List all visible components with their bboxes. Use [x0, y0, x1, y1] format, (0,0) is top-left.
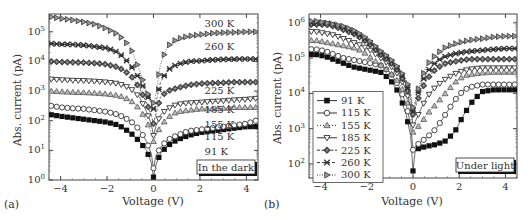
circle-marker: [178, 132, 183, 137]
triangle-up-marker: [59, 89, 65, 94]
x-marker: [81, 43, 87, 48]
circle-marker: [459, 90, 464, 95]
triangle-right-marker: [184, 34, 189, 40]
annotation-text: Under light: [456, 160, 514, 171]
circle-marker: [485, 82, 490, 87]
triangle-up-marker: [183, 108, 189, 113]
circle-marker: [65, 105, 70, 110]
square-marker: [49, 112, 54, 117]
circle-marker: [92, 108, 97, 113]
triangle-right-marker: [108, 28, 113, 34]
x-marker: [496, 46, 502, 51]
triangle-right-marker: [497, 34, 502, 40]
triangle-right-marker: [470, 37, 475, 43]
panel-a-dark: −4−202410010110210310410591 K115 K155 K1…: [28, 14, 259, 194]
triangle-up-marker: [145, 122, 151, 127]
triangle-up-marker: [113, 92, 119, 97]
circle-marker: [242, 121, 247, 126]
circle-marker: [335, 53, 340, 58]
legend-label: 260 K: [341, 157, 371, 168]
triangle-right-marker: [502, 33, 507, 39]
triangle-right-marker: [103, 25, 108, 31]
square-marker: [119, 124, 124, 129]
temperature-label: 300 K: [205, 18, 235, 29]
x-marker: [102, 45, 108, 50]
y-tick-label: 102: [288, 157, 305, 169]
triangle-right-marker: [459, 39, 464, 45]
square-marker: [70, 115, 75, 120]
circle-marker: [325, 49, 330, 54]
circle-marker: [248, 120, 253, 125]
circle-marker: [357, 59, 362, 64]
circle-marker: [156, 148, 161, 153]
circle-marker: [416, 141, 421, 146]
x-marker: [485, 47, 491, 52]
triangle-right-marker: [432, 54, 437, 60]
triangle-right-marker: [237, 29, 242, 35]
square-marker: [140, 143, 145, 148]
circle-marker: [324, 110, 330, 116]
circle-marker: [341, 55, 346, 60]
y-tick-label: 101: [28, 143, 45, 155]
x-marker: [161, 73, 167, 78]
triangle-right-marker: [92, 21, 97, 27]
triangle-up-marker: [421, 116, 427, 121]
triangle-right-marker: [76, 18, 81, 24]
x-marker: [231, 56, 237, 61]
x-marker: [91, 44, 97, 49]
square-marker: [464, 108, 469, 113]
y-tick-label: 104: [288, 86, 306, 98]
x-marker: [108, 47, 114, 52]
square-marker: [113, 122, 118, 127]
square-marker: [368, 68, 373, 73]
square-marker: [129, 132, 134, 137]
triangle-down-marker: [448, 74, 454, 79]
triangle-up-marker: [156, 127, 162, 132]
circle-marker: [129, 120, 134, 125]
legend-label: 91 K: [341, 95, 365, 106]
x-marker: [237, 56, 243, 61]
square-marker: [443, 138, 448, 143]
square-marker: [480, 89, 485, 94]
circle-marker: [464, 86, 469, 91]
triangle-up-marker: [437, 97, 443, 102]
circle-marker: [496, 82, 501, 87]
triangle-right-marker: [248, 29, 253, 35]
triangle-down-marker: [367, 48, 373, 53]
square-marker: [501, 87, 506, 92]
triangle-right-marker: [205, 31, 210, 37]
triangle-down-marker: [442, 77, 448, 82]
circle-marker: [512, 82, 517, 87]
square-marker: [341, 61, 346, 66]
square-marker: [496, 87, 501, 92]
square-marker: [352, 65, 357, 70]
square-marker: [410, 168, 415, 173]
circle-marker: [135, 125, 140, 130]
x-marker: [226, 57, 232, 62]
triangle-down-marker: [362, 45, 368, 50]
square-marker: [491, 87, 496, 92]
triangle-right-marker: [194, 32, 199, 38]
x-marker: [199, 58, 205, 63]
triangle-right-marker: [65, 16, 70, 22]
square-marker: [421, 144, 426, 149]
circle-marker: [70, 106, 75, 111]
x-marker: [474, 48, 480, 53]
triangle-down-marker: [151, 133, 157, 138]
circle-marker: [113, 111, 118, 116]
triangle-right-marker: [464, 38, 469, 44]
square-marker: [330, 57, 335, 62]
triangle-down-marker: [156, 117, 162, 122]
temperature-label: 91 K: [205, 146, 229, 157]
triangle-right-marker: [125, 40, 130, 46]
square-marker: [151, 174, 156, 179]
triangle-down-marker: [167, 106, 173, 111]
x-marker: [210, 57, 216, 62]
x-marker: [48, 41, 54, 46]
x-marker: [437, 57, 443, 62]
square-marker: [253, 124, 258, 129]
triangle-up-marker: [70, 89, 76, 94]
square-marker: [362, 67, 367, 72]
x-marker: [490, 47, 496, 52]
circle-marker: [189, 128, 194, 133]
